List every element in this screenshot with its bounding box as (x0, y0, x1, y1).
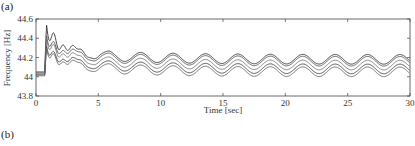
x-tick-label: 25 (343, 98, 353, 108)
x-tick-label: 0 (34, 98, 39, 108)
series-line-5 (36, 49, 409, 77)
y-tick-label: 43.8 (17, 91, 33, 101)
series-line-2 (36, 36, 409, 73)
x-tick-label: 10 (156, 98, 166, 108)
x-tick-label: 20 (281, 98, 291, 108)
y-tick-label: 44.4 (17, 33, 33, 43)
y-tick-label: 44 (24, 72, 34, 82)
y-tick-label: 44.6 (17, 14, 33, 24)
y-axis-label: Frequency [Hz] (2, 30, 12, 87)
x-tick-label: 5 (96, 98, 101, 108)
frequency-chart: 05101520253043.84444.244.444.6 Frequency… (0, 0, 415, 146)
y-tick-label: 44.2 (17, 53, 33, 63)
x-tick-label: 30 (406, 98, 415, 108)
plot-lines (36, 25, 409, 76)
x-axis-label: Time [sec] (204, 105, 242, 115)
plot-frame (36, 19, 410, 96)
